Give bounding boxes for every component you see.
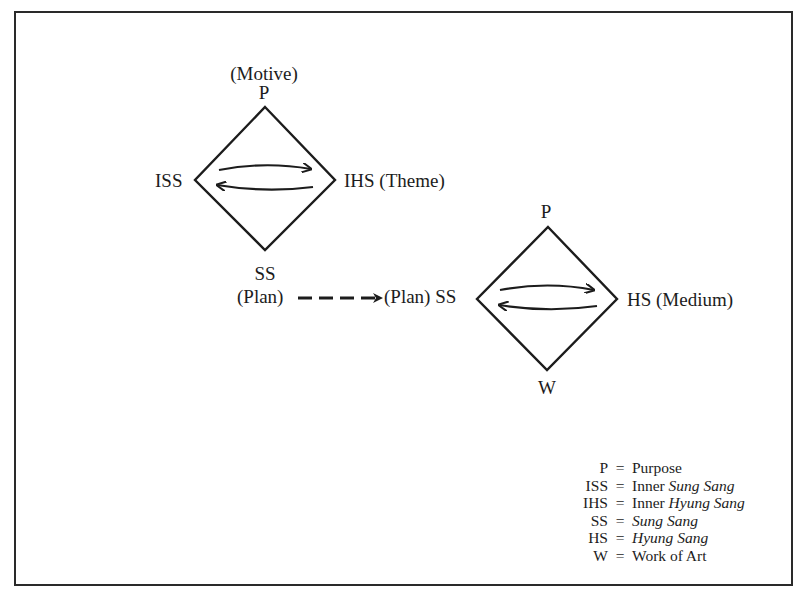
legend-row-p: P = Purpose [556,459,745,477]
stage1-ss-label: SS [254,264,275,284]
stage1-plan-label: (Plan) [237,287,283,307]
legend-definition-plain: Inner [632,494,669,511]
legend-definition-plain: Inner [632,477,669,494]
legend-row-w: W = Work of Art [556,547,745,565]
legend-abbr: HS [556,529,608,547]
legend-equals: = [608,512,632,530]
legend-definition-italic: Hyung Sang [669,494,745,511]
stage2-plan-ss-label: (Plan) SS [384,287,456,307]
legend-definition-italic: Sung Sang [669,477,735,494]
stage1-ihs-theme-label: IHS (Theme) [344,171,445,191]
legend-row-hs: HS = Hyung Sang [556,529,745,547]
stage1-arrow-right-icon [219,165,311,170]
legend-equals: = [608,547,632,565]
stage1-arrow-left-icon [217,185,313,190]
legend-definition-plain: Purpose [632,459,682,476]
legend-definition: Inner Hyung Sang [632,494,745,512]
stage2-hs-medium-label: HS (Medium) [627,290,733,310]
legend-definition-plain: Work of Art [632,547,707,564]
stage1-purpose-label: P [259,83,270,103]
legend-row-ihs: IHS = Inner Hyung Sang [556,494,745,512]
legend-abbr: SS [556,512,608,530]
legend-definition: Sung Sang [632,512,698,530]
legend-definition: Hyung Sang [632,529,708,547]
stage1-motive-label: (Motive) [230,64,298,84]
legend-equals: = [608,494,632,512]
stage1-iss-label: ISS [155,171,182,191]
legend: P = Purpose ISS = Inner Sung Sang IHS = … [556,459,745,564]
stage1-diamond [195,107,335,250]
legend-definition: Work of Art [632,547,707,565]
stage2-purpose-label: P [541,202,552,222]
legend-definition: Inner Sung Sang [632,477,734,495]
legend-equals: = [608,529,632,547]
legend-abbr: W [556,547,608,565]
legend-abbr: ISS [556,477,608,495]
legend-abbr: P [556,459,608,477]
legend-definition-italic: Hyung Sang [632,529,708,546]
stage2-arrow-left-icon [499,305,597,309]
legend-row-ss: SS = Sung Sang [556,512,745,530]
legend-equals: = [608,459,632,477]
legend-definition-italic: Sung Sang [632,512,698,529]
stage2-work-label: W [538,378,556,398]
legend-row-iss: ISS = Inner Sung Sang [556,477,745,495]
legend-definition: Purpose [632,459,682,477]
stage2-arrow-right-icon [500,286,594,291]
legend-equals: = [608,477,632,495]
legend-abbr: IHS [556,494,608,512]
stage2-diamond [477,227,617,370]
